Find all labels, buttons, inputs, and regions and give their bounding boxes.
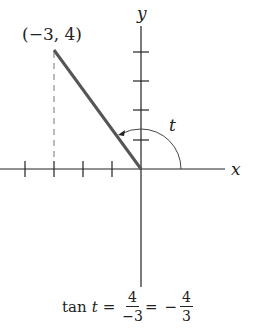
angle-label: t [169,115,176,135]
fraction-2: 4 3 [180,290,193,323]
equals-sign-2: = [145,298,158,316]
fraction-2-numerator: 4 [180,290,193,307]
fraction-1: 4 −3 [122,290,143,323]
point-label: (−3, 4) [22,24,82,44]
fraction-1-numerator: 4 [126,290,139,307]
y-axis-label: y [136,3,147,23]
negative-sign: − [164,298,177,316]
tangent-equation: tan t = 4 −3 = − 4 3 [62,290,195,323]
x-axis-label: x [231,159,241,179]
terminal-side-segment [54,50,141,169]
fraction-1-denominator: −3 [122,307,143,323]
func-name: tan [62,298,87,316]
coordinate-diagram: (−3, 4) y x t [0,0,278,335]
equals-sign: = [103,298,116,316]
variable: t [92,298,98,316]
fraction-2-denominator: 3 [182,307,191,323]
arrowhead-icon [118,130,125,136]
